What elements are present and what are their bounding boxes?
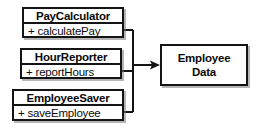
uml-class-diagram: PayCalculator + calculatePay HourReporte…: [0, 0, 266, 129]
class-box-paycalculator[interactable]: PayCalculator + calculatePay: [22, 7, 124, 38]
class-method-reporthours: + reportHours: [22, 65, 120, 79]
class-box-employeesaver[interactable]: EmployeeSaver + saveEmployee: [12, 89, 124, 121]
class-name-employeesaver: EmployeeSaver: [14, 91, 122, 106]
class-method-saveemployee: + saveEmployee: [14, 106, 122, 120]
class-name-paycalculator: PayCalculator: [24, 9, 122, 24]
entity-label-employee-data: Employee Data: [178, 51, 231, 79]
entity-label-line1: Employee: [178, 51, 231, 65]
entity-box-employee-data[interactable]: Employee Data: [160, 44, 248, 86]
class-name-hourreporter: HourReporter: [22, 50, 120, 65]
class-method-calculatepay: + calculatePay: [24, 24, 122, 38]
entity-label-line2: Data: [178, 65, 231, 79]
class-box-hourreporter[interactable]: HourReporter + reportHours: [20, 48, 122, 79]
